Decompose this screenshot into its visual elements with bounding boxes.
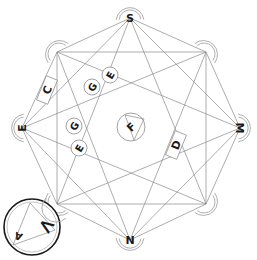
vertex-label-s: S [126, 12, 134, 25]
circle-node-e1: E [102, 67, 118, 83]
circle-node-e2: E [71, 140, 87, 156]
edge [206, 52, 240, 128]
vertex-label-e: E [16, 124, 29, 132]
edge [130, 128, 240, 240]
edge [130, 204, 206, 240]
edge [57, 204, 130, 240]
edge [130, 52, 206, 240]
edge [130, 18, 206, 204]
vertex-label-n: N [125, 234, 134, 247]
corner-seal: < A [4, 199, 61, 255]
edge [57, 18, 130, 204]
circle-node-g2: G [66, 118, 82, 134]
edge [206, 128, 240, 204]
center-node: F [117, 113, 145, 141]
edge [22, 128, 57, 204]
edge [130, 18, 206, 52]
vertex-label-m: M [233, 123, 246, 134]
edge [57, 18, 130, 52]
octagram-diagram: < A F C D E G G E S M N E [0, 0, 257, 260]
circle-node-g1: G [84, 79, 100, 95]
rect-label-c: C [37, 76, 59, 105]
edge [130, 18, 240, 128]
rect-label-d: D [166, 131, 188, 160]
